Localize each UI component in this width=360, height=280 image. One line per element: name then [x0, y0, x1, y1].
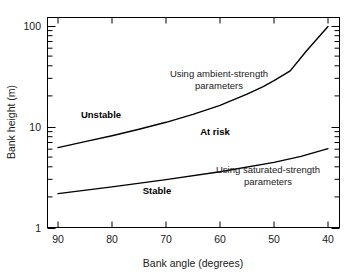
- region-label-stable: Stable: [143, 185, 172, 196]
- x-tick-label-80: 80: [106, 233, 118, 245]
- ambient-strength-annotation-line1: Using ambient-strength: [170, 68, 268, 79]
- x-tick-label-60: 60: [214, 233, 226, 245]
- x-tick-label-90: 90: [52, 233, 64, 245]
- bank-stability-chart: 100 10 1 90 80 70 60 50 40 Bank angle (d…: [0, 0, 360, 280]
- x-tick-label-40: 40: [322, 233, 334, 245]
- y-axis-title: Bank height (m): [5, 85, 17, 159]
- chart-container: 100 10 1 90 80 70 60 50 40 Bank angle (d…: [0, 0, 360, 280]
- y-tick-label-1: 1: [35, 222, 41, 234]
- region-label-unstable: Unstable: [81, 109, 121, 120]
- region-label-at-risk: At risk: [200, 126, 230, 137]
- x-axis-title: Bank angle (degrees): [143, 257, 243, 269]
- y-tick-label-100: 100: [23, 20, 41, 32]
- x-tick-label-70: 70: [160, 233, 172, 245]
- y-tick-label-10: 10: [29, 121, 41, 133]
- ambient-strength-annotation-line2: parameters: [195, 80, 243, 91]
- x-tick-label-50: 50: [268, 233, 280, 245]
- saturated-strength-annotation-line1: Using saturated-strength: [216, 164, 320, 175]
- saturated-strength-annotation-line2: parameters: [244, 176, 292, 187]
